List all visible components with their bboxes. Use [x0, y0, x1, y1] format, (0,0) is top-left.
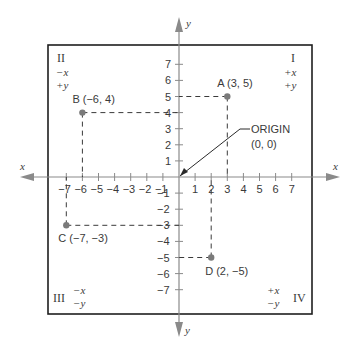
x-tick-label: −7: [58, 183, 71, 195]
x-axis-right-arrow-icon: [326, 173, 340, 181]
x-axis-ticks: −7−6−5−4−3−2−11234567: [58, 173, 295, 195]
svg-text:+y: +y: [56, 79, 68, 91]
point-A: A (3, 5): [179, 77, 253, 178]
point-B: B (−6, 4): [72, 93, 179, 177]
svg-text:+x: +x: [267, 284, 279, 296]
y-tick-label: −7: [157, 284, 170, 296]
x-tick-label: −6: [74, 183, 87, 195]
x-tick-label: 6: [273, 183, 279, 195]
y-tick-label: 2: [165, 139, 171, 151]
y-tick-label: 5: [165, 91, 171, 103]
svg-text:+x: +x: [284, 66, 296, 78]
x-tick-label: −2: [139, 183, 152, 195]
y-axis-down-arrow-icon: [175, 322, 183, 337]
svg-text:I: I: [291, 51, 295, 65]
y-tick-label: −5: [157, 252, 170, 264]
origin-arrow-icon: [180, 168, 188, 176]
quadrant-II-label: II −x +y: [56, 51, 68, 91]
quadrant-I-label: I +x +y: [284, 51, 296, 91]
quadrant-III-label: III −x −y: [53, 284, 85, 309]
x-tick-label: 3: [224, 183, 230, 195]
point-label: B (−6, 4): [72, 93, 115, 105]
svg-text:IV: IV: [293, 291, 306, 305]
x-tick-label: −4: [107, 183, 120, 195]
point-marker: [79, 109, 85, 115]
x-tick-label: −3: [123, 183, 136, 195]
svg-text:+y: +y: [284, 79, 296, 91]
point-marker: [63, 222, 69, 228]
y-tick-label: −1: [157, 187, 170, 199]
y-tick-label: 1: [165, 155, 171, 167]
x-axis-left-arrow-icon: [20, 173, 34, 181]
y-axis-label-top: y: [185, 17, 191, 29]
point-label: A (3, 5): [217, 77, 252, 89]
y-tick-label: −4: [157, 235, 170, 247]
svg-text:−y: −y: [267, 297, 279, 309]
point-marker: [224, 93, 230, 99]
svg-text:II: II: [57, 51, 65, 65]
x-tick-label: 4: [240, 183, 246, 195]
y-tick-label: 3: [165, 123, 171, 135]
x-tick-label: −5: [91, 183, 104, 195]
coordinate-plane: x x y y −7−6−5−4−3−2−11234567 7654321−1−…: [0, 0, 359, 354]
y-tick-label: 7: [165, 58, 171, 70]
y-tick-label: −2: [157, 203, 170, 215]
quadrant-IV-label: +x −y IV: [267, 284, 306, 309]
x-tick-label: 5: [257, 183, 263, 195]
origin-callout: ORIGIN (0, 0): [180, 123, 290, 176]
point-marker: [208, 254, 214, 260]
y-axis-up-arrow-icon: [175, 17, 183, 32]
point-label: C (−7, −3): [58, 232, 108, 244]
y-axis-label-bottom: y: [184, 324, 190, 336]
x-tick-label: 7: [289, 183, 295, 195]
y-tick-label: −6: [157, 268, 170, 280]
svg-text:−x: −x: [73, 284, 85, 296]
origin-label: ORIGIN: [251, 123, 290, 135]
svg-text:III: III: [53, 291, 65, 305]
x-axis-label-left: x: [19, 160, 25, 172]
svg-text:−x: −x: [56, 66, 68, 78]
y-tick-label: 6: [165, 74, 171, 86]
origin-coords: (0, 0): [251, 138, 277, 150]
x-axis-label-right: x: [332, 160, 338, 172]
svg-text:−y: −y: [73, 297, 85, 309]
point-label: D (2, −5): [205, 265, 248, 277]
x-tick-label: 1: [192, 183, 198, 195]
